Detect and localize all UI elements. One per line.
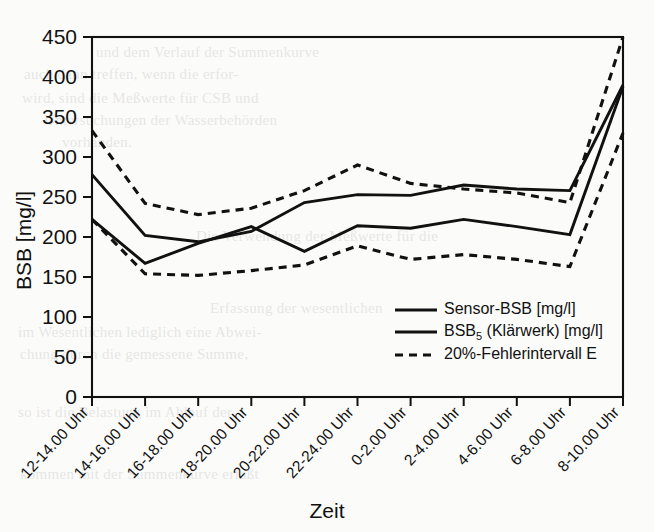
y-tick-label: 150 bbox=[42, 265, 77, 288]
series-line bbox=[92, 37, 623, 215]
legend-label-bsb5: BSB5 (Klärwerk) [mg/l] bbox=[444, 322, 603, 342]
y-tick-label: 250 bbox=[42, 185, 77, 208]
bsb-line-chart: 050100150200250300350400450 BSB [mg/l] 1… bbox=[0, 0, 654, 532]
y-tick-label: 100 bbox=[42, 305, 77, 328]
x-axis-ticks bbox=[92, 397, 623, 406]
legend-label-fehlerintervall: 20%-Fehlerintervall E bbox=[444, 345, 597, 362]
chart-legend: Sensor-BSB [mg/l] BSB5 (Klärwerk) [mg/l]… bbox=[395, 300, 603, 362]
chart-figure: 050100150200250300350400450 BSB [mg/l] 1… bbox=[0, 0, 654, 532]
y-axis-ticks: 050100150200250300350400450 bbox=[42, 25, 92, 408]
y-tick-label: 400 bbox=[42, 65, 77, 88]
series-line bbox=[92, 87, 623, 264]
x-axis-tick-labels: 12-14.00 Uhr14-16.00 Uhr16-18.00 Uhr18-2… bbox=[17, 403, 622, 481]
y-tick-label: 200 bbox=[42, 225, 77, 248]
data-series-layer bbox=[92, 37, 623, 275]
x-tick-label: 2-4.00 Uhr bbox=[401, 403, 463, 468]
legend-label-sensor-bsb: Sensor-BSB [mg/l] bbox=[444, 300, 576, 317]
x-tick-label: 0-2.00 Uhr bbox=[347, 403, 409, 468]
y-axis-title: BSB [mg/l] bbox=[12, 191, 35, 290]
y-tick-label: 0 bbox=[65, 385, 77, 408]
x-tick-label: 4-6.00 Uhr bbox=[454, 403, 516, 468]
y-tick-label: 50 bbox=[54, 345, 77, 368]
plot-frame bbox=[92, 37, 623, 397]
y-tick-label: 450 bbox=[42, 25, 77, 48]
x-axis-title: Zeit bbox=[309, 499, 344, 522]
y-tick-label: 300 bbox=[42, 145, 77, 168]
y-tick-label: 350 bbox=[42, 105, 77, 128]
